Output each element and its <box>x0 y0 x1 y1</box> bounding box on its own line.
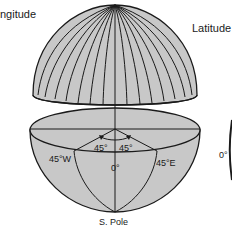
prime-meridian-label: 0° <box>111 163 120 173</box>
upper-hemisphere-icon <box>33 5 197 105</box>
globe-diagram <box>0 0 232 231</box>
angle-label-left: 45° <box>94 143 108 153</box>
south-pole-label: S. Pole <box>99 217 128 227</box>
latitude-sphere-edge-icon <box>230 120 232 180</box>
latitude-title: Latitude <box>192 22 231 34</box>
latitude-zero-label: 0° <box>219 150 228 160</box>
meridian-label-west: 45°W <box>49 154 71 164</box>
angle-label-right: 45° <box>119 143 133 153</box>
longitude-title: ngitude <box>0 8 36 20</box>
meridian-label-east: 45°E <box>156 158 176 168</box>
